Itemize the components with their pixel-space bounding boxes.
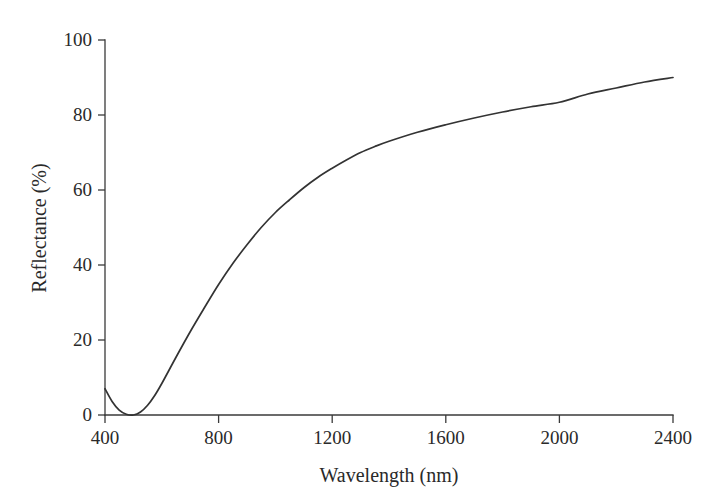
y-tick-label: 40 [73, 254, 92, 275]
x-tick-label: 2000 [540, 427, 578, 448]
y-tick-label: 100 [64, 29, 93, 50]
x-tick-label: 1600 [427, 427, 465, 448]
x-tick-label: 400 [91, 427, 120, 448]
y-tick-label: 20 [73, 329, 92, 350]
y-tick-label: 60 [73, 179, 92, 200]
chart-figure: 020406080100 Reflectance (%) 40080012001… [0, 0, 728, 504]
x-tick-label: 800 [204, 427, 233, 448]
y-axis-title: Reflectance (%) [28, 163, 51, 292]
y-tick-label: 0 [83, 404, 93, 425]
x-tick-label: 1200 [313, 427, 351, 448]
x-axis-title: Wavelength (nm) [320, 464, 459, 487]
x-tick-label: 2400 [654, 427, 692, 448]
y-tick-label: 80 [73, 104, 92, 125]
reflectance-line-chart: 020406080100 Reflectance (%) 40080012001… [0, 0, 728, 504]
